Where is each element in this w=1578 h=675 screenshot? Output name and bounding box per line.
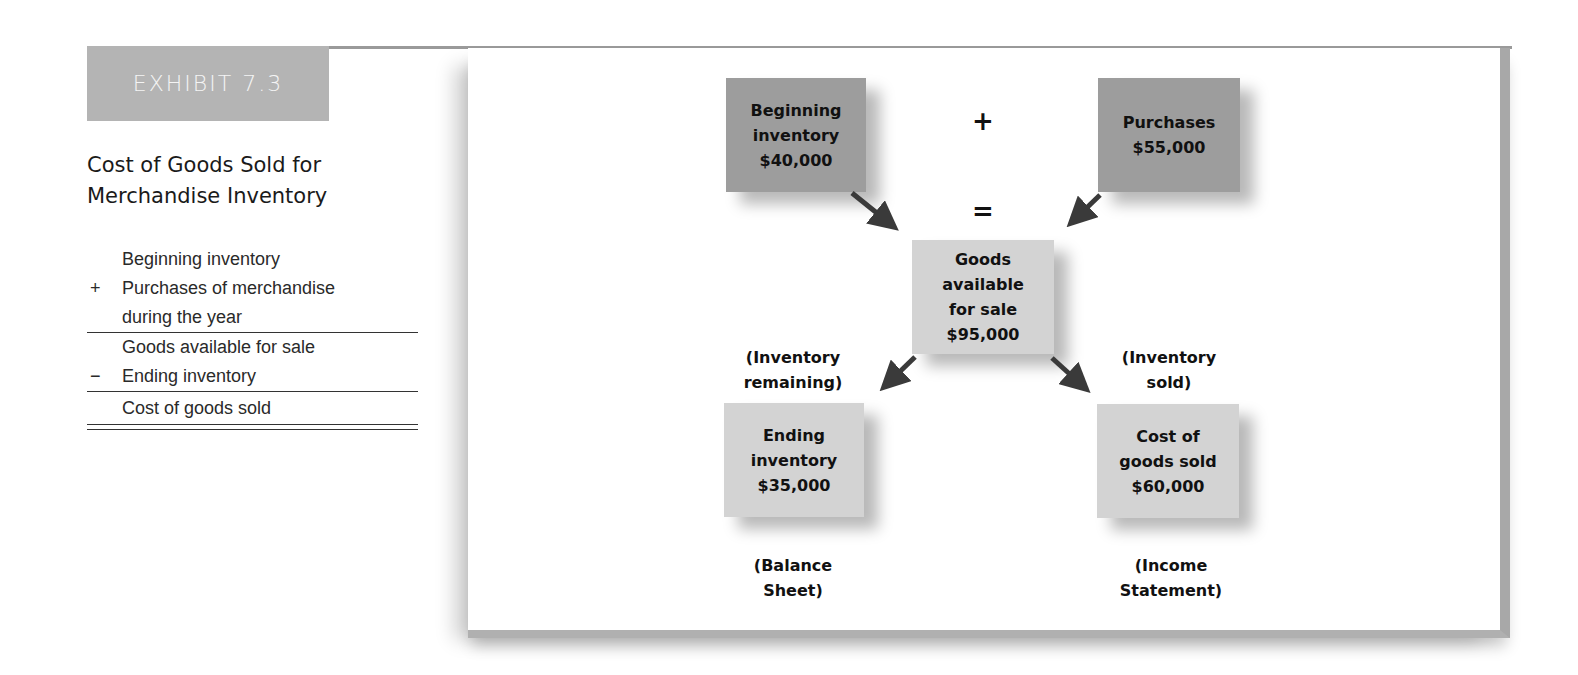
- formula-row: Cost of goods sold: [87, 392, 418, 424]
- plus-operator: +: [90, 274, 118, 303]
- box-text: Beginning: [750, 98, 841, 123]
- exhibit-tab: EXHIBIT 7.3: [87, 46, 329, 121]
- label-text: remaining): [730, 370, 856, 395]
- inventory-sold-label: (Inventory sold): [1106, 345, 1232, 395]
- box-text: Ending: [763, 423, 825, 448]
- beginning-inventory-box: Beginning inventory $40,000: [726, 78, 866, 192]
- income-statement-label: (Income Statement): [1100, 553, 1242, 603]
- formula-row: during the year: [87, 303, 418, 332]
- exhibit-title: Cost of Goods Sold for Merchandise Inven…: [87, 150, 417, 212]
- inventory-remaining-label: (Inventory remaining): [730, 345, 856, 395]
- box-amount: $40,000: [760, 148, 833, 173]
- label-text: sold): [1106, 370, 1232, 395]
- formula-text: Goods available for sale: [122, 333, 315, 362]
- label-text: (Inventory: [730, 345, 856, 370]
- purchases-box: Purchases $55,000: [1098, 78, 1240, 192]
- label-text: Statement): [1100, 578, 1242, 603]
- box-amount: $95,000: [947, 322, 1020, 347]
- formula-row: Beginning inventory: [87, 245, 418, 274]
- box-text: for sale: [949, 297, 1017, 322]
- total-double-rule: [87, 424, 418, 430]
- plus-symbol: +: [972, 106, 994, 136]
- goods-available-box: Goods available for sale $95,000: [912, 240, 1054, 354]
- box-text: inventory: [753, 123, 840, 148]
- exhibit-title-line1: Cost of Goods Sold for: [87, 150, 417, 181]
- minus-operator: −: [90, 362, 118, 391]
- ending-inventory-box: Ending inventory $35,000: [724, 403, 864, 517]
- label-text: (Income: [1100, 553, 1242, 578]
- box-text: available: [942, 272, 1024, 297]
- box-text: inventory: [751, 448, 838, 473]
- box-amount: $55,000: [1133, 135, 1206, 160]
- formula-text: Ending inventory: [122, 362, 256, 391]
- box-text: Goods: [955, 247, 1011, 272]
- formula-row: − Ending inventory: [87, 362, 418, 391]
- equals-symbol: =: [972, 196, 994, 226]
- formula-text: during the year: [122, 303, 242, 332]
- balance-sheet-label: (Balance Sheet): [730, 553, 856, 603]
- label-text: Sheet): [730, 578, 856, 603]
- exhibit-title-line2: Merchandise Inventory: [87, 181, 417, 212]
- box-amount: $35,000: [758, 473, 831, 498]
- formula-text: Cost of goods sold: [122, 392, 271, 424]
- exhibit-label: EXHIBIT 7.3: [133, 71, 283, 96]
- formula-text: Beginning inventory: [122, 245, 280, 274]
- formula-row: Goods available for sale: [87, 333, 418, 362]
- label-text: (Inventory: [1106, 345, 1232, 370]
- label-text: (Balance: [730, 553, 856, 578]
- box-amount: $60,000: [1132, 474, 1205, 499]
- box-text: Purchases: [1123, 110, 1216, 135]
- formula-text: Purchases of merchandise: [122, 274, 335, 303]
- box-text: Cost of: [1136, 424, 1199, 449]
- cost-of-goods-sold-box: Cost of goods sold $60,000: [1097, 404, 1239, 518]
- cogs-formula: Beginning inventory + Purchases of merch…: [87, 245, 418, 430]
- formula-row: + Purchases of merchandise: [87, 274, 418, 303]
- box-text: goods sold: [1119, 449, 1216, 474]
